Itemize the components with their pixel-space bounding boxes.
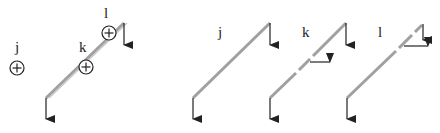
- panel-mode-l: l: [347, 24, 428, 119]
- beam-segment: [270, 73, 296, 98]
- beam-segment: [347, 51, 396, 98]
- label-k: k: [79, 39, 87, 55]
- node-k-plus-circle-icon: [79, 60, 93, 74]
- label-k: k: [302, 24, 310, 40]
- node-j-plus-circle-icon: [10, 61, 24, 75]
- beam-segment: [299, 59, 310, 70]
- beam-line: [193, 23, 270, 98]
- beam-segment: [313, 23, 346, 56]
- panel-mode-k: k: [270, 23, 346, 119]
- label-j: j: [217, 24, 222, 40]
- label-l: l: [104, 5, 108, 21]
- panel-combined: j k l: [10, 5, 127, 119]
- label-j: j: [14, 39, 19, 55]
- node-l-plus-circle-icon: [102, 26, 116, 40]
- panel-mode-j: j: [193, 23, 270, 119]
- label-l: l: [378, 24, 382, 40]
- diagram-canvas: j k l j k: [0, 0, 440, 133]
- beam-segment: [415, 25, 422, 32]
